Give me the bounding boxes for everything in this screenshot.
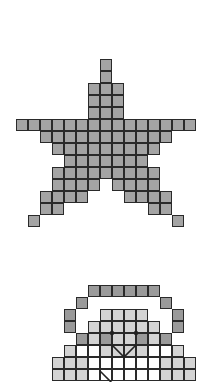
dark-cell (160, 333, 172, 345)
empty-cell (124, 357, 136, 369)
star-cell (100, 107, 112, 119)
light-cell (184, 357, 196, 369)
empty-cell (112, 357, 124, 369)
star-cell (160, 119, 172, 131)
star-cell (148, 119, 160, 131)
empty-cell (112, 369, 124, 381)
empty-cell (160, 345, 172, 357)
star-cell (88, 83, 100, 95)
star-cell (64, 191, 76, 203)
dark-cell (136, 285, 148, 297)
light-cell (76, 357, 88, 369)
dark-cell (88, 285, 100, 297)
star-cell (112, 179, 124, 191)
light-cell (136, 309, 148, 321)
star-cell (40, 203, 52, 215)
star-cell (136, 155, 148, 167)
light-cell (52, 369, 64, 381)
star-cell (100, 59, 112, 71)
star-cell (52, 167, 64, 179)
dark-cell (160, 297, 172, 309)
star-cell (136, 131, 148, 143)
star-cell (64, 143, 76, 155)
light-cell (100, 345, 112, 357)
star-cell (16, 119, 28, 131)
light-cell (124, 321, 136, 333)
empty-cell (76, 345, 88, 357)
star-cell (124, 143, 136, 155)
light-cell (64, 357, 76, 369)
star-cell (112, 143, 124, 155)
light-cell (76, 369, 88, 381)
star-cell (76, 143, 88, 155)
light-cell (172, 369, 184, 381)
star-cell (100, 143, 112, 155)
light-cell (88, 333, 100, 345)
star-cell (136, 179, 148, 191)
empty-cell (136, 369, 148, 381)
star-cell (52, 179, 64, 191)
star-cell (76, 131, 88, 143)
light-cell (100, 321, 112, 333)
star-cell (28, 119, 40, 131)
dark-cell (172, 321, 184, 333)
star-cell (148, 143, 160, 155)
empty-cell (100, 369, 112, 381)
star-cell (88, 155, 100, 167)
dark-cell (124, 285, 136, 297)
star-cell (52, 131, 64, 143)
star-cell (40, 131, 52, 143)
empty-cell (148, 369, 160, 381)
dark-cell (136, 333, 148, 345)
star-cell (52, 143, 64, 155)
star-cell (124, 167, 136, 179)
empty-cell (136, 357, 148, 369)
light-cell (148, 321, 160, 333)
light-cell (172, 345, 184, 357)
star-cell (100, 71, 112, 83)
star-cell (148, 203, 160, 215)
light-cell (64, 369, 76, 381)
star-cell (76, 191, 88, 203)
star-cell (88, 179, 100, 191)
dark-cell (64, 309, 76, 321)
star-cell (76, 167, 88, 179)
star-cell (88, 131, 100, 143)
star-cell (112, 83, 124, 95)
star-cell (100, 131, 112, 143)
dark-cell (100, 285, 112, 297)
light-cell (148, 333, 160, 345)
light-cell (160, 369, 172, 381)
star-cell (64, 179, 76, 191)
star-cell (160, 203, 172, 215)
dark-cell (64, 321, 76, 333)
star-cell (136, 143, 148, 155)
light-cell (172, 357, 184, 369)
star-cell (148, 167, 160, 179)
empty-cell (88, 357, 100, 369)
star-cell (112, 155, 124, 167)
star-cell (100, 167, 112, 179)
star-cell (136, 191, 148, 203)
star-cell (172, 215, 184, 227)
star-cell (76, 179, 88, 191)
empty-cell (100, 357, 112, 369)
star-cell (40, 119, 52, 131)
star-cell (64, 119, 76, 131)
light-cell (88, 321, 100, 333)
star-cell (124, 155, 136, 167)
star-cell (88, 167, 100, 179)
star-cell (64, 155, 76, 167)
star-cell (100, 95, 112, 107)
star-cell (52, 119, 64, 131)
light-cell (136, 345, 148, 357)
star-cell (124, 191, 136, 203)
empty-cell (148, 345, 160, 357)
star-cell (88, 119, 100, 131)
star-cell (76, 119, 88, 131)
light-cell (184, 369, 196, 381)
star-cell (88, 95, 100, 107)
star-cell (112, 119, 124, 131)
dark-cell (76, 297, 88, 309)
star-cell (100, 119, 112, 131)
